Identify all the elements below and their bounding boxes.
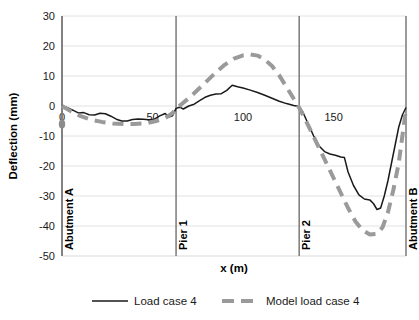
y-tick-label: 30: [43, 10, 55, 22]
legend-label-load-case-4: Load case 4: [134, 295, 197, 307]
legend-label-model-load-case-4: Model load case 4: [266, 295, 360, 307]
marker-label: Abutment B: [407, 188, 419, 250]
y-tick-label: -50: [39, 250, 55, 262]
y-tick-label: 20: [43, 40, 55, 52]
marker-label: Pier 2: [300, 220, 312, 250]
y-tick-label: -10: [39, 130, 55, 142]
chart-background: [0, 0, 419, 320]
marker-label: Abutment A: [63, 188, 75, 250]
origin-marker-dot: [59, 120, 65, 129]
y-tick-label: 10: [43, 70, 55, 82]
deflection-chart: 3020100-10-20-30-40-50 050100150 Abutmen…: [0, 0, 419, 320]
y-tick-label: 0: [49, 100, 55, 112]
y-tick-label: -20: [39, 160, 55, 172]
y-tick-label: -40: [39, 220, 55, 232]
y-axis-title: Deflection (mm): [7, 92, 19, 179]
y-tick-label: -30: [39, 190, 55, 202]
x-tick-label: 100: [234, 111, 252, 123]
marker-label: Pier 1: [177, 220, 189, 250]
x-axis-title: x (m): [220, 262, 248, 274]
x-tick-label: 150: [324, 111, 342, 123]
chart-canvas: 3020100-10-20-30-40-50 050100150 Abutmen…: [0, 0, 419, 320]
